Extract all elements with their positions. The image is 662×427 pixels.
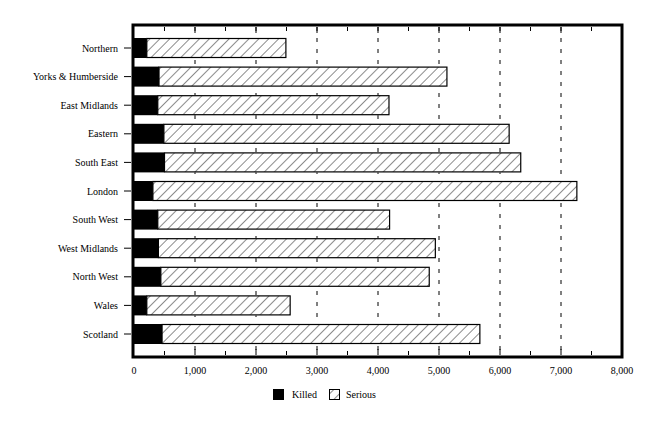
bar-serious	[158, 96, 389, 115]
bar-chart: NorthernYorks & HumbersideEast MidlandsE…	[0, 0, 662, 427]
category-label: West Midlands	[58, 243, 118, 254]
bar-serious	[159, 67, 447, 86]
x-tick-label: 1,000	[184, 365, 207, 376]
legend-swatch-serious	[330, 390, 340, 400]
bar-serious	[153, 182, 577, 201]
category-label: South East	[75, 157, 118, 168]
legend-label-killed: Killed	[292, 389, 317, 400]
legend-label-serious: Serious	[346, 389, 376, 400]
bar-serious	[158, 239, 435, 258]
category-label: Scotland	[83, 329, 118, 340]
bar-serious	[165, 153, 521, 172]
category-labels: NorthernYorks & HumbersideEast MidlandsE…	[33, 43, 131, 340]
bar-killed	[134, 210, 158, 230]
x-tick-label: 7,000	[550, 365, 573, 376]
bar-serious	[147, 39, 286, 58]
bar-serious	[162, 325, 480, 344]
category-label: London	[87, 186, 118, 197]
bar-killed	[134, 67, 159, 87]
x-tick-label: 4,000	[367, 365, 390, 376]
category-label: North West	[73, 271, 119, 282]
bar-killed	[134, 124, 164, 144]
bars	[134, 38, 577, 344]
category-label: Yorks & Humberside	[33, 71, 119, 82]
bar-serious	[164, 124, 509, 143]
bar-killed	[134, 181, 153, 201]
category-label: Northern	[82, 43, 118, 54]
bar-killed	[134, 267, 161, 287]
bar-serious	[158, 210, 390, 229]
category-label: South West	[73, 214, 119, 225]
x-tick-label: 0	[132, 365, 137, 376]
category-label: Eastern	[88, 128, 118, 139]
bar-killed	[134, 38, 147, 58]
bar-serious	[147, 296, 290, 315]
bar-serious	[161, 267, 429, 286]
bar-killed	[134, 295, 147, 315]
x-tick-label: 3,000	[306, 365, 329, 376]
x-tick-label: 6,000	[489, 365, 512, 376]
legend-swatch-killed	[273, 389, 284, 400]
bar-killed	[134, 152, 165, 172]
bar-killed	[134, 324, 162, 344]
bar-killed	[134, 238, 158, 258]
x-tick-label: 8,000	[611, 365, 634, 376]
bar-killed	[134, 95, 158, 115]
x-tick-label: 5,000	[428, 365, 451, 376]
legend: Killed Serious	[273, 389, 376, 400]
x-tick-label: 2,000	[245, 365, 268, 376]
category-label: Wales	[94, 300, 118, 311]
category-label: East Midlands	[61, 100, 119, 111]
